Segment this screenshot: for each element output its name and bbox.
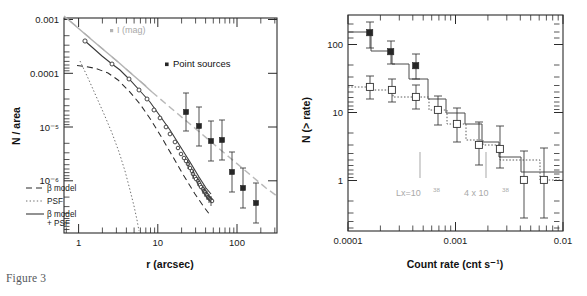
left-x-axis: 1 10 100 r (arcsec)	[66, 18, 274, 270]
series-point-sources	[183, 93, 259, 223]
left-annotation-i-mag-label: I (mag)	[117, 25, 146, 35]
left-ytick-label-2: 10⁻⁵	[39, 122, 59, 133]
right-annotation-lx-1-exponent: 38	[433, 186, 440, 193]
right-annotation-lx-2-label: 4 x 10	[464, 188, 489, 198]
left-y-axis-title: N / area	[10, 107, 22, 145]
right-annotation-lx-1-label: Lx=10	[396, 188, 421, 198]
right-annotation-lx-1: Lx=10 38	[396, 152, 440, 198]
legend-label-beta-plus-psf-line2: + PSF	[47, 219, 70, 228]
legend-item-psf: PSF	[26, 197, 63, 206]
series-psf	[80, 61, 139, 231]
legend-label-beta-plus-psf-line1: β model	[47, 210, 76, 219]
left-ytick-label-1: 0.0001	[30, 68, 59, 79]
right-x-axis: 0.0001 0.001 0.01 Count rate (cnt s⁻¹)	[333, 15, 572, 270]
left-xtick-label-2: 100	[229, 237, 245, 248]
left-ytick-label-0: 0.001	[35, 14, 59, 25]
left-plot-svg: 0.001 0.0001 10⁻⁵ 10⁻⁶ N / area	[0, 0, 295, 296]
chart-panel-left: 0.001 0.0001 10⁻⁵ 10⁻⁶ N / area	[0, 0, 295, 296]
series-open-points	[366, 76, 548, 218]
right-annotation-lx-2: 4 x 10 38	[464, 152, 509, 198]
series-i-mag	[64, 16, 277, 196]
right-ytick-label-0: 100	[327, 39, 343, 50]
left-annotation-point-sources-label: Point sources	[173, 58, 231, 69]
series-resolved-dotted	[348, 87, 563, 180]
right-xtick-label-0: 0.0001	[333, 235, 362, 246]
legend-label-psf: PSF	[47, 197, 63, 206]
left-annotation-i-mag: I (mag)	[110, 25, 146, 35]
legend-label-beta-model: β model	[47, 184, 76, 193]
chart-panel-right: 100 10 1 N (> rate)	[292, 0, 587, 296]
right-y-axis: 100 10 1 N (> rate)	[300, 24, 563, 228]
left-annotation-point-sources: Point sources	[165, 58, 231, 69]
series-beta-model	[77, 66, 210, 216]
legend-item-beta-model: β model	[26, 184, 76, 193]
left-xtick-label-0: 1	[76, 237, 81, 248]
right-xtick-label-2: 0.01	[554, 235, 573, 246]
right-y-axis-title: N (> rate)	[300, 97, 312, 143]
figure-caption: Figure 3	[6, 272, 46, 284]
figure-3-root: 0.001 0.0001 10⁻⁵ 10⁻⁶ N / area	[0, 0, 587, 296]
right-plot-svg: 100 10 1 N (> rate)	[292, 0, 587, 296]
right-xtick-label-1: 0.001	[444, 235, 468, 246]
right-ytick-label-2: 1	[338, 175, 343, 186]
left-x-axis-title: r (arcsec)	[146, 258, 193, 270]
series-cumulative-step	[348, 32, 563, 172]
right-annotation-lx-2-exponent: 38	[502, 186, 509, 193]
left-xtick-label-1: 10	[153, 237, 164, 248]
legend-item-beta-plus-psf: β model + PSF	[26, 210, 76, 228]
right-x-axis-title: Count rate (cnt s⁻¹)	[407, 258, 503, 270]
left-legend: β model PSF β model + PSF	[26, 184, 76, 228]
right-ytick-label-1: 10	[332, 107, 343, 118]
